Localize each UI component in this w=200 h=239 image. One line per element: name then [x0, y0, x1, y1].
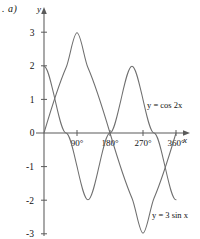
- cos-curve-label: y = cos 2x: [147, 100, 183, 110]
- y-tick-label-2: 2: [30, 61, 35, 71]
- y-tick-label-0: 0: [30, 128, 35, 138]
- x-tick-label-360: 360°: [167, 138, 185, 148]
- y-axis-name: y: [36, 4, 41, 14]
- y-tick-label-m3: -3: [26, 229, 34, 239]
- y-tick-label-1: 1: [30, 95, 35, 105]
- y-tick-label-m2: -2: [26, 196, 34, 206]
- trig-graph-figure: y x 3 2 1 0 -1 -2 -3 90° 180° 270° 360° …: [0, 0, 200, 239]
- x-tick-label-270: 270°: [134, 138, 152, 148]
- sin-curve-label: y = 3 sin x: [152, 210, 189, 220]
- y-axis-arrowhead: [41, 7, 47, 14]
- y-tick-label-3: 3: [30, 28, 35, 38]
- y-tick-label-m1: -1: [26, 162, 34, 172]
